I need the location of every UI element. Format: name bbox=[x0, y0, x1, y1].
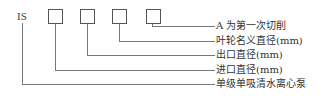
leader-line-box4-h bbox=[152, 26, 215, 27]
code-box-4 bbox=[146, 9, 161, 24]
label-inlet-diameter: 进口直径(mm) bbox=[216, 64, 283, 76]
leader-line-box3-v bbox=[119, 24, 120, 42]
leader-line-prefix-h bbox=[22, 84, 215, 85]
code-box-1 bbox=[48, 9, 63, 24]
code-box-3 bbox=[112, 9, 127, 24]
leader-line-box1-h bbox=[55, 70, 215, 71]
label-pump-type: 单级单吸清水离心泵 bbox=[216, 78, 306, 90]
leader-line-box2-v bbox=[87, 24, 88, 56]
leader-line-box3-h bbox=[119, 41, 215, 42]
code-box-2 bbox=[80, 9, 95, 24]
leader-line-prefix-v bbox=[22, 23, 23, 85]
leader-line-box1-v bbox=[55, 24, 56, 71]
model-prefix: IS bbox=[17, 10, 27, 22]
leader-line-box2-h bbox=[87, 55, 215, 56]
label-cut-variant: A 为第一次切削 bbox=[216, 20, 286, 32]
label-impeller-diameter: 叶轮名义直径(mm) bbox=[216, 35, 303, 47]
label-outlet-diameter: 出口直径(mm) bbox=[216, 49, 283, 61]
